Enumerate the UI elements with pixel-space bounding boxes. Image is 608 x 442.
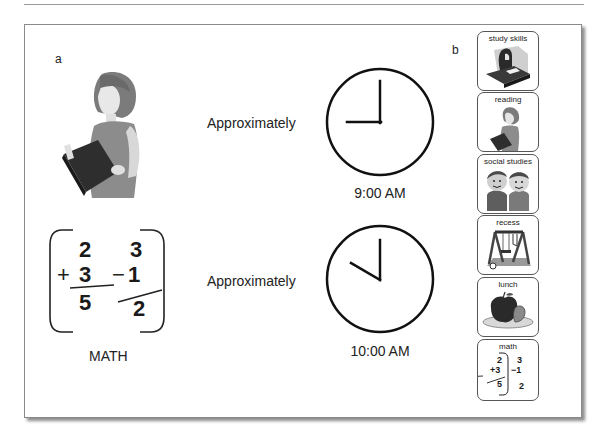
schedule-card-recess: recess	[477, 215, 539, 275]
time-label-10am: 10:00 AM	[330, 343, 430, 359]
mini-sum: 5	[497, 379, 502, 389]
card-label: lunch	[478, 280, 538, 289]
math-caption: MATH	[89, 348, 128, 364]
schedule-card-lunch: lunch	[477, 277, 539, 337]
card-label: reading	[478, 95, 538, 104]
approximately-label-2: Approximately	[207, 273, 296, 289]
schedule-card-math: math 2 +3 5 3 −1 2	[477, 339, 539, 401]
difference-result: 2	[133, 296, 145, 322]
plus-sign: +	[57, 262, 70, 288]
schedule-card-social-studies: social studies	[477, 154, 539, 214]
two-children-icon	[483, 167, 533, 211]
apple-on-plate-icon	[481, 290, 535, 330]
addend-top: 2	[79, 237, 91, 263]
mini-addend-top: 2	[497, 355, 502, 365]
mini-addend-bottom: +3	[490, 365, 500, 375]
schedule-card-reading: reading	[477, 92, 539, 152]
panel-b-label: b	[452, 43, 459, 57]
student-at-desk-icon	[484, 44, 532, 88]
time-label-9am: 9:00 AM	[330, 185, 430, 201]
minus-sign: −	[112, 262, 125, 288]
panel-a-label: a	[55, 52, 62, 66]
mini-minuend: 3	[517, 355, 522, 365]
card-label: study skills	[478, 34, 538, 43]
card-label: math	[478, 342, 538, 351]
approximately-label-1: Approximately	[207, 115, 296, 131]
top-rule	[24, 4, 584, 5]
mini-subtrahend: −1	[511, 365, 521, 375]
schedule-card-study-skills: study skills	[477, 31, 539, 91]
card-label: recess	[478, 218, 538, 227]
mini-difference: 2	[519, 381, 524, 391]
addend-bottom: 3	[79, 262, 91, 288]
woman-reading-icon	[488, 105, 528, 151]
subtrahend: 1	[128, 262, 140, 288]
woman-reading-image	[58, 66, 154, 198]
swing-set-icon	[483, 228, 533, 272]
clock-10am-icon	[324, 223, 436, 335]
math-problems-image: 2 + 3 5 3 − 1 2	[48, 227, 168, 337]
minuend: 3	[130, 237, 142, 263]
card-label: social studies	[478, 157, 538, 166]
mini-math-icon: 2 +3 5 3 −1 2	[484, 352, 534, 396]
sum-result: 5	[79, 290, 91, 316]
clock-9am-icon	[324, 66, 436, 178]
